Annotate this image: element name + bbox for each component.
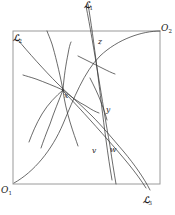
line-label-L3: ℒ3: [143, 196, 152, 207]
curve-group: [14, 4, 160, 190]
line-label-L2-sub: 2: [19, 38, 23, 44]
corner-label-O2-sub: 2: [168, 28, 172, 34]
corner-label-O1: O1: [1, 186, 12, 197]
point-label-w: w: [110, 146, 116, 154]
line-label-L2: ℒ2: [13, 34, 22, 45]
line-label-L3-sub: 3: [149, 200, 153, 206]
point-label-x: x: [64, 92, 68, 100]
curve-L2-main: [18, 40, 150, 190]
geometric-figure: ℒ1 ℒ2 ℒ3 O1 O2 x z y v w: [0, 0, 175, 215]
curve-x-fan-b: [63, 42, 71, 90]
point-label-y: y: [106, 106, 110, 114]
corner-label-O2: O2: [161, 24, 172, 35]
curve-x-fan-g: [41, 90, 63, 148]
point-label-z: z: [98, 38, 102, 46]
frame-rect-group: [13, 31, 160, 184]
curve-L1-secondary: [86, 6, 116, 184]
point-label-v: v: [92, 147, 96, 155]
figure-canvas: [0, 0, 175, 215]
curve-L3-main: [62, 90, 146, 188]
line-label-L1: ℒ1: [84, 1, 93, 12]
line-label-L1-sub: 1: [90, 5, 94, 11]
corner-label-O1-sub: 1: [8, 190, 12, 196]
curve-z-cross: [78, 56, 115, 74]
frame-rect: [13, 31, 160, 184]
